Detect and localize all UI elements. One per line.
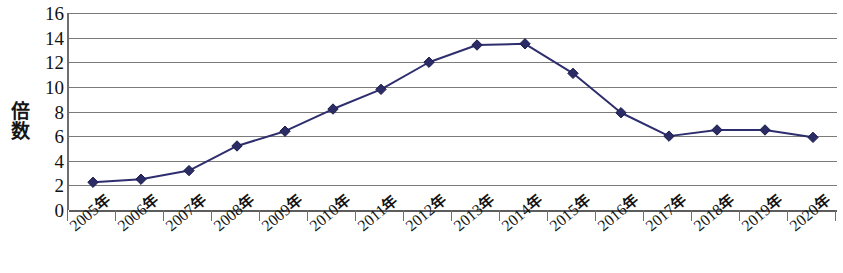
data-point-marker — [760, 125, 770, 135]
x-axis-tick-labels: 2005年2006年2007年2008年2009年2010年2011年2012年… — [67, 222, 843, 273]
data-point-marker — [712, 125, 722, 135]
y-axis-tick-label: 8 — [30, 102, 64, 121]
data-point-marker — [88, 177, 98, 187]
y-axis-tick-label: 6 — [30, 127, 64, 146]
y-axis-tick-label: 2 — [30, 176, 64, 195]
y-axis-tick-labels: 0246810121416 — [30, 0, 64, 273]
data-point-marker — [376, 84, 386, 94]
data-point-marker — [232, 141, 242, 151]
plot-area — [67, 13, 837, 210]
y-axis-tick-label: 4 — [30, 151, 64, 170]
y-axis-title-label: 倍数 — [10, 101, 29, 141]
data-point-marker — [184, 165, 194, 175]
x-axis-tick — [835, 210, 836, 221]
data-point-marker — [424, 57, 434, 67]
series-markers — [88, 39, 818, 188]
data-point-marker — [136, 174, 146, 184]
data-point-marker — [328, 104, 338, 114]
data-point-marker — [664, 131, 674, 141]
y-axis-tick-label: 14 — [30, 28, 64, 47]
series-polyline — [93, 44, 813, 183]
y-axis-tick-label: 10 — [30, 77, 64, 96]
data-point-marker — [280, 126, 290, 136]
data-point-marker — [520, 39, 530, 49]
y-axis-tick-label: 0 — [30, 201, 64, 220]
data-point-marker — [472, 40, 482, 50]
series-line-multiple — [69, 13, 837, 210]
data-point-marker — [808, 132, 818, 142]
y-axis-tick-label: 12 — [30, 53, 64, 72]
y-axis-tick-label: 16 — [30, 4, 64, 23]
line-chart: 倍数 0246810121416 2005年2006年2007年2008年200… — [0, 0, 843, 273]
